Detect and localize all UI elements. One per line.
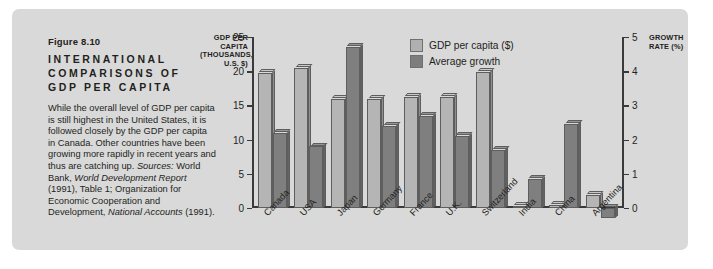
figure-text-column: Figure 8.10 INTERNATIONAL COMPARISONS OF… bbox=[48, 36, 216, 219]
left-tick-label: 20 bbox=[233, 66, 244, 77]
axis-tick bbox=[624, 105, 629, 106]
bar-side bbox=[578, 121, 581, 208]
bar bbox=[440, 97, 454, 208]
axis-tick bbox=[247, 105, 252, 106]
axis-tick bbox=[624, 208, 629, 209]
right-axis-line bbox=[622, 37, 624, 208]
axis-tick bbox=[624, 140, 629, 141]
bar bbox=[258, 73, 272, 208]
axis-tick bbox=[247, 208, 252, 209]
bar-face bbox=[404, 97, 418, 208]
bar-face bbox=[258, 73, 272, 208]
left-tick-label: 0 bbox=[238, 203, 244, 214]
bar-side bbox=[360, 44, 363, 208]
right-tick-label: 0 bbox=[632, 203, 638, 214]
figure-panel: Figure 8.10 INTERNATIONAL COMPARISONS OF… bbox=[12, 9, 688, 250]
bar bbox=[476, 72, 490, 208]
right-axis-caption: GROWTH RATE (%) bbox=[649, 34, 703, 51]
bar-face bbox=[331, 99, 345, 208]
bar-side bbox=[505, 147, 508, 208]
bar bbox=[455, 136, 469, 208]
right-tick-label: 5 bbox=[632, 32, 638, 43]
bar-group bbox=[440, 37, 472, 208]
axis-tick bbox=[247, 140, 252, 141]
axis-tick bbox=[247, 174, 252, 175]
chart-plot-area: 0510152025 012345 CanadaUSAJapanGermanyF… bbox=[252, 37, 624, 208]
bar-face bbox=[294, 68, 308, 208]
axis-tick bbox=[247, 37, 252, 38]
bar-face bbox=[476, 72, 490, 208]
bar-side bbox=[323, 143, 326, 208]
right-tick-label: 2 bbox=[632, 134, 638, 145]
bar-group bbox=[367, 37, 399, 208]
bar bbox=[367, 99, 381, 208]
bar-face bbox=[346, 47, 360, 208]
left-tick-label: 5 bbox=[238, 168, 244, 179]
bar-face bbox=[367, 99, 381, 208]
left-tick-label: 25 bbox=[233, 32, 244, 43]
bar-side bbox=[542, 176, 545, 208]
bar-group bbox=[294, 37, 326, 208]
bar-group bbox=[476, 37, 508, 208]
left-tick-label: 10 bbox=[233, 134, 244, 145]
bar-group bbox=[586, 37, 618, 208]
bar-side bbox=[615, 205, 618, 218]
bar bbox=[331, 99, 345, 208]
axis-tick bbox=[624, 71, 629, 72]
bar bbox=[294, 68, 308, 208]
left-axis-line bbox=[252, 37, 254, 208]
axis-tick bbox=[247, 71, 252, 72]
figure-number: Figure 8.10 bbox=[48, 36, 216, 47]
bar-side bbox=[469, 133, 472, 208]
bar-face bbox=[440, 97, 454, 208]
right-tick-label: 1 bbox=[632, 168, 638, 179]
bar-group bbox=[549, 37, 581, 208]
bar-group bbox=[258, 37, 290, 208]
bar-group bbox=[404, 37, 436, 208]
bar-face bbox=[455, 136, 469, 208]
right-tick-label: 4 bbox=[632, 66, 638, 77]
bar bbox=[404, 97, 418, 208]
left-tick-label: 15 bbox=[233, 100, 244, 111]
bar bbox=[346, 47, 360, 208]
axis-tick bbox=[624, 37, 629, 38]
axis-tick bbox=[624, 174, 629, 175]
bar-group bbox=[331, 37, 363, 208]
figure-title: INTERNATIONAL COMPARISONS OF GDP PER CAP… bbox=[48, 52, 216, 94]
bar-side bbox=[433, 113, 436, 208]
figure-caption-body: While the overall level of GDP per capit… bbox=[48, 103, 216, 219]
right-tick-label: 3 bbox=[632, 100, 638, 111]
